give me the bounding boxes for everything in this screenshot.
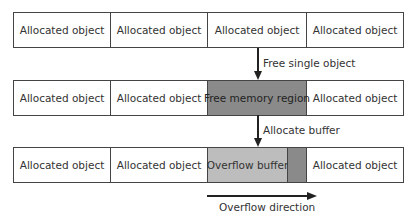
transition-arrow-line [257, 48, 259, 72]
memory-row-freed: Allocated object Allocated object Free m… [13, 80, 404, 116]
memory-row-overflow: Allocated object Allocated object Overfl… [13, 147, 404, 183]
transition-label-free: Free single object [263, 57, 355, 69]
allocated-object-cell: Allocated object [307, 81, 403, 115]
memory-row-initial: Allocated object Allocated object Alloca… [13, 12, 404, 48]
overflow-direction-line [207, 195, 309, 197]
allocated-object-cell: Allocated object [111, 148, 208, 182]
arrow-down-icon [254, 138, 262, 147]
overflow-direction-label: Overflow direction [219, 201, 315, 213]
arrow-right-icon [307, 192, 317, 200]
allocated-object-cell: Allocated object [14, 148, 111, 182]
allocated-object-cell: Allocated object [14, 13, 111, 47]
allocated-object-cell: Allocated object [111, 13, 208, 47]
transition-label-allocate: Allocate buffer [263, 124, 340, 136]
arrow-down-icon [254, 71, 262, 80]
allocated-object-cell: Allocated object [111, 81, 208, 115]
allocated-object-cell: Allocated object [307, 148, 403, 182]
transition-arrow-line [257, 115, 259, 139]
allocated-object-cell: Allocated object [14, 81, 111, 115]
overflow-buffer-cell: Overflow buffer [208, 148, 288, 182]
allocated-object-cell: Allocated object [307, 13, 403, 47]
free-memory-region-cell: Free memory region [208, 81, 307, 115]
allocated-object-cell: Allocated object [208, 13, 307, 47]
remaining-free-cell [288, 148, 307, 182]
